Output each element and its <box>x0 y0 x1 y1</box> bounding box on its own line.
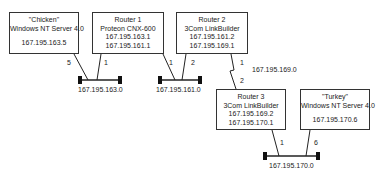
turkey-ip: 167.195.170.6 <box>301 116 369 125</box>
port-router3-169: 2 <box>240 77 244 85</box>
segment-170-label: 167.195.170.0 <box>269 162 314 170</box>
turkey-os: Windows NT Server 4.0 <box>301 102 369 111</box>
segment-170-bus <box>263 152 320 160</box>
router3-model: 3Com LinkBuilder <box>217 102 285 111</box>
router1-ip2: 167.195.161.1 <box>93 42 163 51</box>
port-turkey-170: 6 <box>314 139 318 147</box>
router3-name: Router 3 <box>217 93 285 102</box>
segment-169-label: 167.195.169.0 <box>252 66 297 74</box>
chicken-ip: 167.195.163.5 <box>10 39 78 48</box>
node-router3: Router 3 3Com LinkBuilder 167.195.169.2 … <box>216 89 286 130</box>
node-router1: Router 1 Proteon CNX-600 167.195.163.1 1… <box>92 12 164 54</box>
router3-ip1: 167.195.169.2 <box>217 110 285 119</box>
node-chicken: "Chicken" Windows NT Server 4.0 167.195.… <box>9 12 79 54</box>
port-router3-170: 1 <box>280 139 284 147</box>
turkey-name: "Turkey" <box>301 93 369 102</box>
router1-model: Proteon CNX-600 <box>93 25 163 34</box>
router3-ip2: 167.195.170.1 <box>217 119 285 128</box>
port-router1-163: 1 <box>104 59 108 67</box>
router1-name: Router 1 <box>93 16 163 25</box>
segment-161-label: 167.195.161.0 <box>156 86 201 94</box>
router2-name: Router 2 <box>177 16 247 25</box>
node-turkey: "Turkey" Windows NT Server 4.0 167.195.1… <box>300 89 370 130</box>
chicken-name: "Chicken" <box>10 16 78 25</box>
router1-ip1: 167.195.163.1 <box>93 33 163 42</box>
router2-ip1: 167.195.161.2 <box>177 33 247 42</box>
port-router2-161: 2 <box>191 59 195 67</box>
router2-ip2: 167.195.169.1 <box>177 42 247 51</box>
port-chicken-163: 5 <box>67 59 71 67</box>
node-router2: Router 2 3Com LinkBuilder 167.195.161.2 … <box>176 12 248 54</box>
port-router1-161: 1 <box>169 59 173 67</box>
segment-163-label: 167.195.163.0 <box>78 86 123 94</box>
segment-161-bus <box>158 76 202 84</box>
chicken-os: Windows NT Server 4.0 <box>10 25 78 34</box>
router2-model: 3Com LinkBuilder <box>177 25 247 34</box>
segment-163-bus <box>78 76 122 84</box>
port-router2-169: 1 <box>240 59 244 67</box>
